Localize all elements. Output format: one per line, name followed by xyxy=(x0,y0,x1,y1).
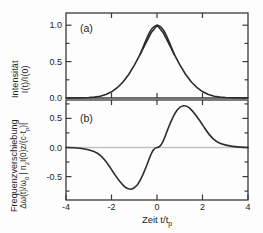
panel-b-tag: (b) xyxy=(80,112,93,124)
panel-a-tag: (a) xyxy=(80,22,93,34)
panel-a-y-ticks-right xyxy=(243,25,249,98)
panel-b xyxy=(66,100,248,200)
panel-a-ytick-0.0: 0.0 xyxy=(36,93,62,103)
panel-b-ylabel-line2: Δω(t)/ω0 | n2I(0)z/(c·tp)| xyxy=(19,119,30,212)
panel-a-ylabel-line1: Intensität xyxy=(10,60,20,98)
panel-a xyxy=(66,13,248,98)
xtick--4: -4 xyxy=(62,202,70,212)
panel-a-ylabel: Intensität I(t)/I(0) xyxy=(10,60,30,98)
panel-a-ylabel-line2: I(t)/I(0) xyxy=(20,60,30,98)
xlabel-text: Zeit t/t xyxy=(142,214,168,225)
panel-b-x-ticks xyxy=(66,195,248,201)
panel-b-ytick-0.0: 0.0 xyxy=(36,143,62,153)
panel-a-curve xyxy=(66,25,248,98)
panel-a-y-ticks xyxy=(66,25,72,98)
xtick-2: 2 xyxy=(200,202,205,212)
panel-a-ytick-1.0: 1.0 xyxy=(36,20,62,30)
panel-b-ylabel-line1: Frequenzverschiebung xyxy=(9,119,19,212)
panel-a-x-ticks-top xyxy=(112,13,203,18)
xtick-4: 4 xyxy=(245,202,250,212)
xtick-0: 0 xyxy=(154,202,159,212)
xtick--2: -2 xyxy=(107,202,115,212)
xlabel-subscript: p xyxy=(168,220,172,227)
xlabel: Zeit t/tp xyxy=(65,214,249,227)
panel-b-x-ticks-top xyxy=(112,100,203,105)
panel-b-ytick--0.5: -0.5 xyxy=(32,172,62,182)
panel-a-curve-peak xyxy=(140,25,174,54)
panel-b-ytick-0.5: 0.5 xyxy=(36,113,62,123)
figure-canvas: 1.0 0.5 0.0 0.5 0.0 -0.5 -4 -2 0 2 4 (a)… xyxy=(0,0,263,233)
panel-a-ytick-0.5: 0.5 xyxy=(36,57,62,67)
panel-b-frame xyxy=(66,100,248,200)
panel-b-ylabel: Frequenzverschiebung Δω(t)/ω0 | n2I(0)z/… xyxy=(9,119,30,212)
